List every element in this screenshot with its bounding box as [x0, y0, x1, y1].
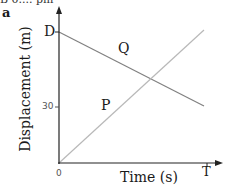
x-axis-arrow-icon	[215, 160, 223, 166]
displacement-time-chart	[0, 0, 226, 190]
series-label-P: P	[101, 97, 110, 113]
y-axis-arrow-icon	[56, 6, 62, 14]
tick-label-30: 30	[42, 101, 53, 111]
tick-label-T: T	[202, 164, 211, 179]
tick-label-origin: 0	[56, 168, 62, 178]
series-label-Q: Q	[118, 40, 129, 56]
x-axis-label: Time (s)	[120, 169, 178, 185]
series-p-line	[59, 30, 204, 163]
series-q-line	[59, 32, 204, 106]
tick-label-D: D	[44, 23, 55, 39]
y-axis-label: Displacement (m)	[17, 26, 33, 152]
